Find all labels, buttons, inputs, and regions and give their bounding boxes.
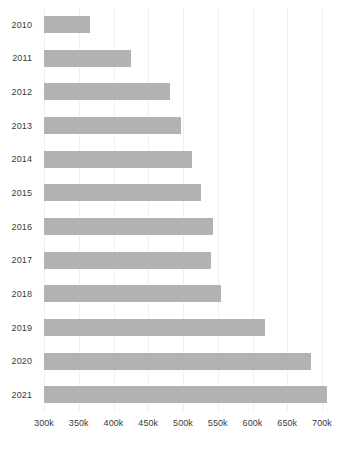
x-tick-label-500k: 500k bbox=[173, 418, 193, 428]
bar-row bbox=[44, 210, 322, 244]
bar-2015[interactable] bbox=[44, 184, 201, 201]
plot-area bbox=[44, 8, 322, 412]
y-tick-label-2017: 2017 bbox=[12, 244, 32, 278]
gridline-700k bbox=[322, 8, 323, 412]
x-tick-label-700k: 700k bbox=[312, 418, 332, 428]
bar-2021[interactable] bbox=[44, 386, 327, 403]
y-tick-label-2018: 2018 bbox=[12, 277, 32, 311]
bar-2020[interactable] bbox=[44, 353, 311, 370]
y-tick-label-2016: 2016 bbox=[12, 210, 32, 244]
bar-2017[interactable] bbox=[44, 252, 211, 269]
bar-2016[interactable] bbox=[44, 218, 213, 235]
bar-row bbox=[44, 244, 322, 278]
bar-row bbox=[44, 42, 322, 76]
bar-2018[interactable] bbox=[44, 285, 221, 302]
bar-row bbox=[44, 378, 322, 412]
y-tick-label-2013: 2013 bbox=[12, 109, 32, 143]
x-tick-label-400k: 400k bbox=[104, 418, 124, 428]
bar-row bbox=[44, 109, 322, 143]
bar-row bbox=[44, 277, 322, 311]
x-tick-label-300k: 300k bbox=[34, 418, 54, 428]
y-tick-label-2019: 2019 bbox=[12, 311, 32, 345]
bar-row bbox=[44, 311, 322, 345]
bar-chart: 2010201120122013201420152016201720182019… bbox=[0, 0, 347, 459]
bars-layer bbox=[44, 8, 322, 412]
bar-row bbox=[44, 143, 322, 177]
bar-2013[interactable] bbox=[44, 117, 181, 134]
x-tick-label-650k: 650k bbox=[277, 418, 297, 428]
y-tick-label-2010: 2010 bbox=[12, 8, 32, 42]
x-tick-label-550k: 550k bbox=[208, 418, 228, 428]
bar-row bbox=[44, 345, 322, 379]
bar-row bbox=[44, 75, 322, 109]
bar-row bbox=[44, 176, 322, 210]
x-tick-label-350k: 350k bbox=[69, 418, 89, 428]
y-axis-category-labels: 2010201120122013201420152016201720182019… bbox=[0, 8, 38, 412]
bar-2014[interactable] bbox=[44, 151, 192, 168]
y-tick-label-2014: 2014 bbox=[12, 143, 32, 177]
x-tick-label-600k: 600k bbox=[243, 418, 263, 428]
y-tick-label-2012: 2012 bbox=[12, 75, 32, 109]
y-tick-label-2021: 2021 bbox=[12, 378, 32, 412]
y-tick-label-2015: 2015 bbox=[12, 176, 32, 210]
x-axis-tick-labels: 300k350k400k450k500k550k600k650k700k bbox=[44, 418, 322, 436]
bar-2012[interactable] bbox=[44, 83, 170, 100]
x-tick-label-450k: 450k bbox=[138, 418, 158, 428]
y-tick-label-2011: 2011 bbox=[12, 42, 32, 76]
y-tick-label-2020: 2020 bbox=[12, 345, 32, 379]
bar-2019[interactable] bbox=[44, 319, 265, 336]
bar-2010[interactable] bbox=[44, 16, 90, 33]
bar-row bbox=[44, 8, 322, 42]
bar-2011[interactable] bbox=[44, 50, 131, 67]
